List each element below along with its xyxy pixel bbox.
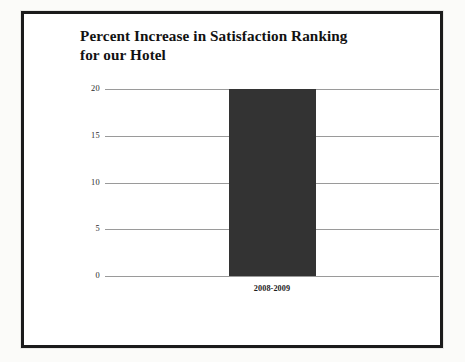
slide-frame: Percent Increase in Satisfaction Ranking… xyxy=(21,11,443,348)
x-axis: 2008-2009 xyxy=(105,276,439,302)
slide-root: Percent Increase in Satisfaction Ranking… xyxy=(0,0,465,362)
chart-plot-canvas xyxy=(105,89,439,276)
x-axis-category-label: 2008-2009 xyxy=(254,284,290,293)
chart-plot-area: 05101520 2008-2009 xyxy=(64,89,439,319)
bar-2008-2009 xyxy=(229,89,316,276)
y-axis-tick-label: 20 xyxy=(64,85,100,93)
y-axis-tick-label: 0 xyxy=(64,272,100,280)
y-axis-tick-label: 5 xyxy=(64,225,100,233)
y-axis-tick-label: 10 xyxy=(64,178,100,186)
y-axis-tick-label: 15 xyxy=(64,132,100,140)
chart-title: Percent Increase in Satisfaction Ranking… xyxy=(80,26,425,64)
y-axis: 05101520 xyxy=(64,89,100,276)
